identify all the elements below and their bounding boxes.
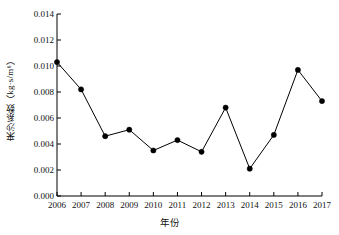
sediment-coefficient-line-chart: 来沙系数（kg·s/m⁶） 0.0000.0020.0040.0060.0080…: [0, 0, 339, 235]
x-axis-title-label: 年份: [160, 218, 180, 228]
data-point-marker: [199, 149, 204, 154]
plot-area: [0, 0, 339, 235]
data-point-marker: [247, 166, 252, 171]
data-point-marker: [319, 99, 324, 104]
x-axis-title: 年份: [0, 215, 339, 229]
y-axis-ticks: [57, 14, 61, 196]
data-point-marker: [54, 60, 59, 65]
data-point-marker: [175, 138, 180, 143]
data-point-marker: [223, 105, 228, 110]
axis-lines: [57, 14, 322, 196]
data-point-marker: [103, 134, 108, 139]
data-point-marker: [78, 87, 83, 92]
data-point-marker: [151, 148, 156, 153]
data-series-line: [57, 62, 322, 169]
data-point-marker: [127, 127, 132, 132]
x-axis-ticks: [57, 192, 322, 196]
data-point-marker: [295, 67, 300, 72]
data-point-marker: [271, 132, 276, 137]
